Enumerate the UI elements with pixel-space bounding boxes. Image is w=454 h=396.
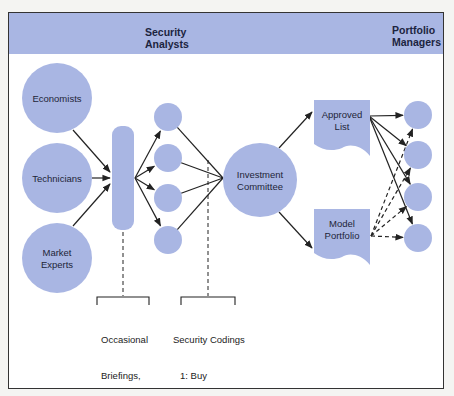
document-label-approved-list-line: List [335, 121, 350, 132]
portfolio-manager-node [404, 101, 432, 129]
analyst-rating-node [154, 226, 182, 254]
portfolio-manager-node [404, 183, 432, 211]
source-label-economists: Economists [32, 93, 81, 104]
nodes: EconomistsTechniciansMarketExpertsInvest… [22, 63, 432, 293]
briefings-line: Briefings, [101, 370, 148, 382]
security-codings-title: Security Codings [173, 334, 245, 346]
briefings-note: Occasional Briefings, Reports, Etc. [101, 310, 148, 396]
coding-item: 1: Buy [173, 370, 245, 382]
edge-model-portfolio-to-manager [371, 168, 410, 236]
source-label-technicians: Technicians [32, 173, 82, 184]
security-analysts-bar [112, 126, 134, 230]
edge-approved-list-to-manager [369, 115, 403, 116]
edge-model-portfolio-to-manager [371, 236, 403, 237]
portfolio-manager-node [404, 141, 432, 169]
briefings-bracket [97, 297, 149, 305]
analyst-rating-node [154, 144, 182, 172]
edge-rating-to-committee [177, 127, 223, 178]
edge-committee-to-model-portfolio [279, 212, 312, 248]
source-label-market-experts-line: Experts [41, 259, 73, 270]
analyst-rating-node [154, 184, 182, 212]
document-label-model-portfolio-line: Model [329, 218, 355, 229]
source-label-economists-line: Economists [32, 93, 81, 104]
document-label-model-portfolio: ModelPortfolio [325, 218, 360, 241]
analyst-rating-node [154, 103, 182, 131]
edge-approved-list-to-manager [369, 116, 412, 224]
edge-committee-to-approved-list [279, 112, 312, 148]
document-label-approved-list-line: Approved [322, 109, 363, 120]
source-label-market-experts: MarketExperts [41, 247, 73, 270]
investment-committee-label: InvestmentCommittee [237, 169, 284, 192]
investment-committee-label-line: Committee [237, 181, 283, 192]
source-label-technicians-line: Technicians [32, 173, 82, 184]
codings-bracket [181, 297, 235, 305]
portfolio-manager-node [404, 224, 432, 252]
investment-committee-label-line: Investment [237, 169, 284, 180]
briefings-line: Occasional [101, 334, 148, 346]
source-label-market-experts-line: Market [42, 247, 71, 258]
document-label-model-portfolio-line: Portfolio [325, 230, 360, 241]
security-codings-note: Security Codings 1: Buy 2: OK to Buy 3: … [173, 310, 245, 396]
